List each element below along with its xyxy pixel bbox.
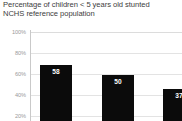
plot-area: 100% 80% 60% 40% 20% 58 50 37 <box>0 26 182 121</box>
bar-2[interactable]: 50 <box>102 75 134 121</box>
chart-subtitle: NCHS reference population <box>3 9 182 18</box>
bar-3-value-label: 37 <box>163 92 182 99</box>
bar-1-value-label: 58 <box>40 68 72 75</box>
y-axis-tick-labels: 100% 80% 60% 40% 20% <box>0 26 30 121</box>
bar-3[interactable]: 37 <box>163 89 182 121</box>
y-tick-label-100: 100% <box>12 29 26 35</box>
bar-1[interactable]: 58 <box>40 65 72 121</box>
y-tick-label-40: 40% <box>15 92 26 98</box>
bar-series: 58 50 37 <box>30 26 182 121</box>
chart-title-block: Percentage of children < 5 years old stu… <box>3 0 182 19</box>
chart-screenshot: Stunting Percentage of children < 5 year… <box>0 0 182 121</box>
y-tick-label-20: 20% <box>15 113 26 119</box>
y-tick-label-60: 60% <box>15 71 26 77</box>
chart-title: Percentage of children < 5 years old stu… <box>3 0 182 9</box>
y-tick-label-80: 80% <box>15 50 26 56</box>
bar-2-value-label: 50 <box>102 78 134 85</box>
